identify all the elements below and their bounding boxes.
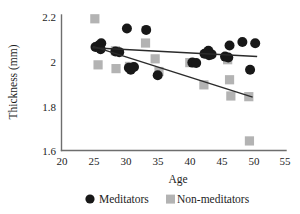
data-point	[93, 60, 102, 69]
x-tick-label: 40	[185, 155, 197, 167]
data-point	[141, 25, 151, 35]
x-tick-labels: 20 25 30 35 40 45 50 55	[57, 155, 292, 167]
legend-label-meditators: Meditators	[99, 193, 149, 205]
data-point	[122, 24, 132, 34]
data-point	[191, 58, 201, 68]
chart-canvas: 2.2 2 1.8 1.6 20 25 30 35 40 45 50 55 Ag…	[0, 0, 300, 214]
axis-group	[62, 15, 287, 151]
data-point	[153, 70, 163, 80]
x-tick-label: 55	[280, 155, 292, 167]
x-tick-label: 30	[121, 155, 133, 167]
y-tick-label: 1.8	[42, 101, 56, 113]
y-tick-label: 2.2	[42, 11, 56, 23]
data-point	[225, 40, 235, 50]
data-point	[111, 64, 120, 73]
data-point	[223, 53, 233, 63]
legend-marker-square-icon	[166, 195, 175, 204]
data-point	[225, 75, 234, 84]
series-non-meditators	[90, 14, 254, 145]
data-point	[151, 54, 160, 63]
x-tick-label: 45	[217, 155, 229, 167]
data-point	[237, 37, 247, 47]
data-series-layer	[90, 14, 260, 145]
legend: Meditators Non-meditators	[85, 193, 249, 205]
data-point	[226, 91, 235, 100]
x-tick-label: 35	[153, 155, 165, 167]
data-point	[245, 65, 255, 75]
y-tick-label: 2	[51, 56, 57, 68]
data-point	[90, 14, 99, 23]
y-tick-label: 1.6	[42, 145, 56, 157]
x-tick-label: 50	[249, 155, 261, 167]
data-point	[245, 136, 254, 145]
x-tick-label: 25	[89, 155, 101, 167]
legend-label-non-meditators: Non-meditators	[177, 193, 250, 205]
data-point	[250, 38, 260, 48]
y-tick-labels: 2.2 2 1.8 1.6	[42, 11, 56, 157]
x-tick-label: 20	[57, 155, 69, 167]
data-point	[129, 62, 139, 72]
scatter-plot-figure: 2.2 2 1.8 1.6 20 25 30 35 40 45 50 55 Ag…	[0, 0, 300, 214]
y-axis-title: Thickness (mm)	[7, 44, 20, 119]
data-point	[141, 38, 150, 47]
legend-marker-circle-icon	[85, 194, 94, 203]
x-axis-title: Age	[168, 173, 187, 186]
